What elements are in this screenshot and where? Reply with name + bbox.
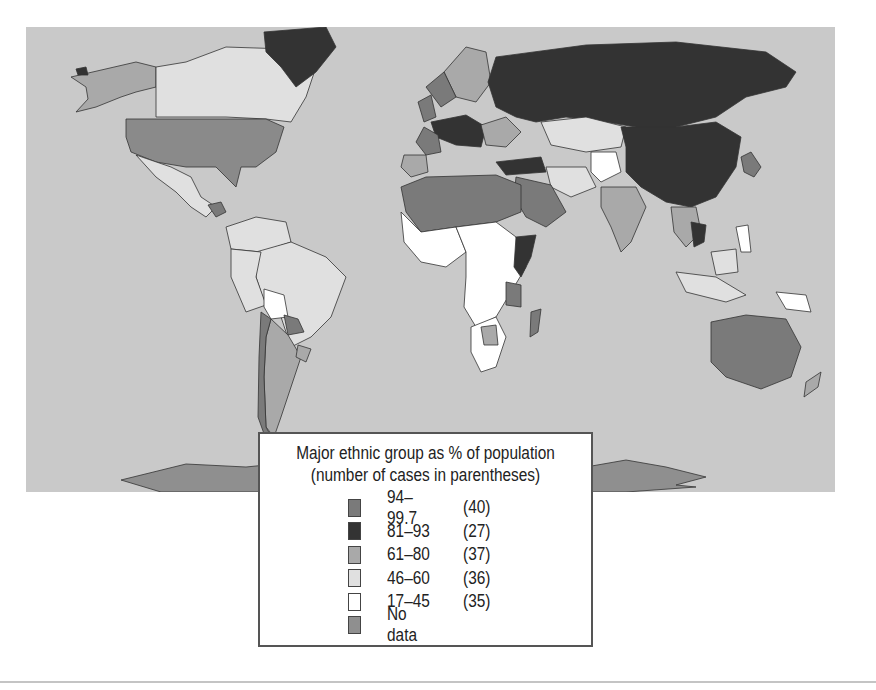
region-madagascar: [530, 309, 541, 337]
legend-count: (40): [463, 497, 490, 518]
legend-range: 61–80: [387, 544, 440, 565]
legend-count: (37): [463, 544, 490, 565]
region-vietnam: [691, 222, 706, 247]
region-eastern-europe: [481, 117, 521, 147]
legend-count: (36): [463, 568, 490, 589]
legend-items: 94–99.7 (40) 81–93 (27) 61–80 (37) 46–60…: [348, 496, 494, 637]
region-north-africa: [401, 175, 521, 232]
region-antarctica: [121, 464, 266, 492]
region-iberia: [401, 155, 428, 177]
region-botswana: [481, 325, 498, 345]
region-horn-africa: [514, 235, 536, 277]
divider-rule: [0, 681, 876, 683]
region-indonesia: [676, 272, 746, 302]
legend-range: No data: [387, 604, 440, 646]
legend-item-94-99: 94–99.7 (40): [348, 496, 494, 520]
legend-item-61-80: 61–80 (37): [348, 543, 494, 567]
legend-item-46-60: 46–60 (36): [348, 567, 494, 591]
legend-swatch: [348, 569, 361, 587]
legend-title-line1: Major ethnic group as % of population: [280, 442, 571, 464]
world-map-svg: [26, 27, 835, 492]
legend-swatch: [348, 616, 361, 634]
legend-count: (27): [463, 521, 490, 542]
region-antarctica-east: [586, 460, 706, 492]
world-map: [26, 27, 835, 492]
region-borneo: [711, 249, 738, 275]
region-usa: [126, 119, 284, 187]
legend-swatch: [348, 522, 361, 540]
legend-item-81-93: 81–93 (27): [348, 520, 494, 544]
region-russia: [488, 42, 796, 127]
region-turkey: [496, 157, 546, 175]
legend-swatch: [348, 593, 361, 611]
region-central-africa: [456, 222, 526, 327]
region-new-zealand: [804, 372, 821, 397]
legend-item-no-data: No data: [348, 614, 494, 638]
region-uk: [418, 95, 436, 122]
region-india: [601, 187, 646, 252]
region-australia: [711, 315, 801, 389]
region-philippines: [736, 225, 751, 252]
region-png: [776, 292, 811, 312]
region-central-america: [208, 202, 226, 217]
legend-title: Major ethnic group as % of population (n…: [280, 442, 571, 486]
legend-swatch: [348, 499, 361, 517]
legend-swatch: [348, 546, 361, 564]
legend: Major ethnic group as % of population (n…: [258, 432, 593, 647]
region-afghanistan: [591, 152, 621, 182]
region-korea-japan: [741, 152, 761, 177]
region-tanzania: [506, 282, 521, 307]
legend-range: 46–60: [387, 568, 440, 589]
legend-title-line2: (number of cases in parentheses): [280, 464, 571, 486]
region-aleutian: [76, 67, 88, 75]
legend-count: (35): [463, 591, 490, 612]
legend-range: 81–93: [387, 521, 440, 542]
